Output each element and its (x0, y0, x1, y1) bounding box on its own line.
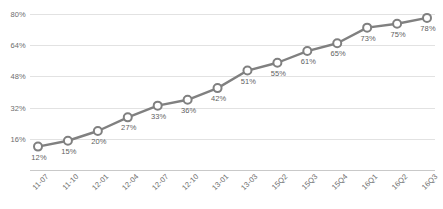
data-point-marker (363, 24, 371, 32)
data-point-label: 42% (211, 94, 226, 103)
data-point-label: 27% (121, 123, 136, 132)
plot-area: 12%15%20%27%33%36%42%51%55%61%65%73%75%7… (30, 14, 435, 170)
data-point-marker (393, 20, 401, 28)
data-point-label: 20% (91, 137, 106, 146)
x-axis-tick-label: 15Q3 (300, 172, 320, 192)
axis-baseline (30, 170, 435, 171)
x-axis-tick-label: 15Q4 (330, 172, 350, 192)
x-axis-tick-label: 11-07 (30, 172, 50, 192)
x-axis-tick-label: 15Q2 (270, 172, 290, 192)
data-point-marker (273, 59, 281, 67)
x-axis-tick-label: 12-07 (150, 172, 170, 192)
data-point-label: 75% (390, 30, 405, 39)
data-point-label: 55% (271, 69, 286, 78)
data-point-label: 36% (181, 106, 196, 115)
line-chart: 80%64%48%32%16% 12%15%20%27%33%36%42%51%… (0, 0, 443, 209)
data-point-label: 33% (151, 112, 166, 121)
y-axis-tick-label: 64% (10, 41, 26, 50)
y-axis-tick-label: 16% (10, 134, 26, 143)
data-point-label: 65% (331, 49, 346, 58)
data-point-label: 78% (420, 24, 435, 33)
x-axis-tick-label: 16Q2 (390, 172, 410, 192)
data-point-label: 73% (360, 34, 375, 43)
data-point-marker (214, 84, 222, 92)
y-axis-tick-label: 80% (10, 10, 26, 19)
x-axis-tick-label: 12-10 (180, 172, 200, 192)
x-axis-tick-label: 12-01 (90, 172, 110, 192)
data-point-marker (94, 127, 102, 135)
data-point-marker (184, 96, 192, 104)
x-axis-tick-label: 16Q3 (420, 172, 440, 192)
data-point-label: 15% (61, 147, 76, 156)
x-axis-tick-label: 13-01 (210, 172, 230, 192)
x-axis-tick-label: 12-04 (120, 172, 140, 192)
data-point-marker (64, 137, 72, 145)
data-point-marker (303, 47, 311, 55)
data-point-label: 12% (31, 153, 46, 162)
x-axis-tick-label: 16Q1 (360, 172, 380, 192)
y-axis: 80%64%48%32%16% (0, 14, 26, 170)
data-point-marker (333, 39, 341, 47)
x-axis-tick-label: 11-10 (60, 172, 80, 192)
data-point-label: 51% (241, 77, 256, 86)
data-point-marker (124, 113, 132, 121)
data-point-marker (243, 67, 251, 75)
y-axis-tick-label: 48% (10, 72, 26, 81)
data-point-marker (34, 143, 42, 151)
data-point-marker (154, 102, 162, 110)
x-axis: 11-0711-1012-0112-0412-0712-1013-0113-03… (30, 172, 435, 209)
y-axis-tick-label: 32% (10, 103, 26, 112)
data-point-label: 61% (301, 57, 316, 66)
x-axis-tick-label: 13-03 (240, 172, 260, 192)
data-point-marker (423, 14, 431, 22)
